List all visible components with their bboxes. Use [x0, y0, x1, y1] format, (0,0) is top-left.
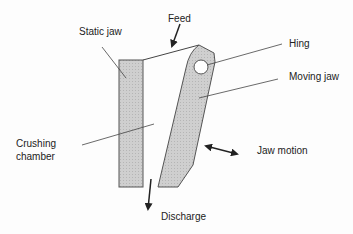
- hinge-leader: [207, 44, 282, 65]
- hinge-icon: [194, 60, 208, 74]
- feed-label: Feed: [168, 13, 191, 25]
- diagram-graphic: [0, 0, 353, 234]
- static-jaw: [119, 60, 143, 187]
- jaw-motion-label: Jaw motion: [257, 145, 308, 157]
- crushing-chamber-label-line1: Crushing: [16, 138, 56, 150]
- hinge-label: Hing: [289, 38, 310, 50]
- feed-arrow-icon: [172, 24, 180, 46]
- jaw-motion-arrow-icon: [206, 146, 237, 154]
- static-jaw-label: Static jaw: [79, 26, 122, 38]
- discharge-label: Discharge: [161, 211, 206, 223]
- jaw-crusher-diagram: Static jaw Feed Hing Moving jaw Crushing…: [0, 0, 353, 234]
- moving-jaw-label: Moving jaw: [289, 71, 339, 83]
- discharge-arrow-icon: [148, 179, 151, 209]
- crushing-chamber-label-line2: chamber: [16, 151, 55, 163]
